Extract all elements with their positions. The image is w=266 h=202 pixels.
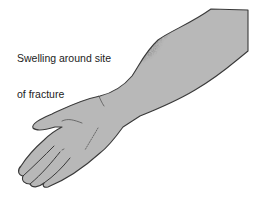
arm-illustration: [0, 0, 266, 202]
